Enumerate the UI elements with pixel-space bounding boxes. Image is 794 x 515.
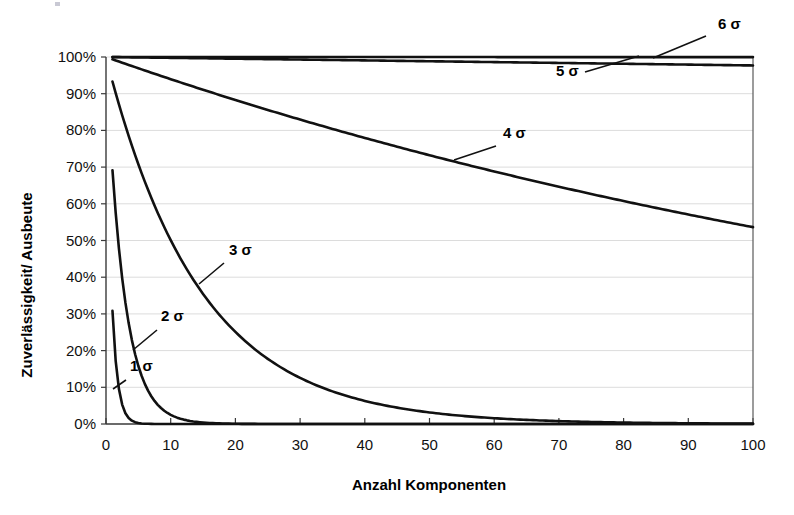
reliability-yield-line-chart: 0%10%20%30%40%50%60%70%80%90%100% 010203… [0, 0, 794, 515]
series-curve-4sigma [112, 59, 753, 227]
leader-line [133, 330, 157, 350]
y-tick-label: 40% [66, 268, 96, 285]
y-tick-label: 90% [66, 85, 96, 102]
x-tick-label: 50 [421, 436, 438, 453]
x-axis-tick-labels-group: 0102030405060708090100 [102, 436, 766, 453]
x-axis-title: Anzahl Komponenten [352, 476, 506, 493]
chart-figure: 0%10%20%30%40%50%60%70%80%90%100% 010203… [0, 0, 794, 515]
y-tick-marks-group [101, 57, 106, 424]
y-tick-label: 70% [66, 158, 96, 175]
x-tick-label: 10 [162, 436, 179, 453]
leader-line [653, 36, 706, 58]
x-tick-label: 40 [356, 436, 373, 453]
y-tick-label: 50% [66, 232, 96, 249]
y-tick-label: 0% [74, 415, 96, 432]
y-tick-label: 30% [66, 305, 96, 322]
gridlines-group [106, 57, 753, 387]
series-label: 1 σ [130, 357, 153, 374]
leader-line [454, 146, 496, 160]
x-tick-label: 0 [102, 436, 110, 453]
series-label: 6 σ [718, 15, 741, 32]
y-axis-tick-labels-group: 0%10%20%30%40%50%60%70%80%90%100% [58, 48, 96, 432]
leader-line [199, 263, 224, 284]
series-label: 3 σ [229, 241, 252, 258]
y-tick-label: 10% [66, 378, 96, 395]
series-annotation-labels-group: 6 σ5 σ4 σ3 σ2 σ1 σ [130, 15, 741, 374]
x-tick-label: 60 [486, 436, 503, 453]
series-curve-3sigma [112, 82, 753, 424]
x-tick-label: 30 [292, 436, 309, 453]
y-tick-label: 20% [66, 342, 96, 359]
x-tick-label: 80 [615, 436, 632, 453]
x-tick-label: 20 [227, 436, 244, 453]
y-tick-label: 100% [58, 48, 96, 65]
scan-artifact [55, 2, 60, 6]
series-label: 4 σ [503, 124, 526, 141]
x-tick-label: 90 [680, 436, 697, 453]
x-tick-label: 100 [740, 436, 765, 453]
y-tick-label: 80% [66, 121, 96, 138]
series-label: 5 σ [556, 62, 579, 79]
y-axis-title: Zuverlässigkeit/ Ausbeute [18, 192, 35, 377]
series-curve-1sigma [112, 311, 753, 424]
y-tick-label: 60% [66, 195, 96, 212]
series-label: 2 σ [161, 307, 184, 324]
x-tick-label: 70 [551, 436, 568, 453]
